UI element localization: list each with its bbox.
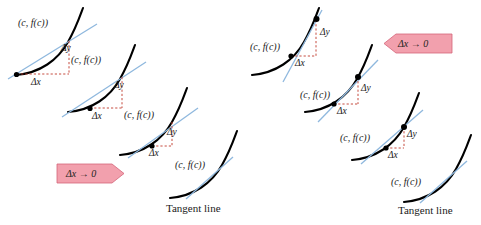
secant-second-point-dot bbox=[355, 74, 361, 80]
right-step-2-delta-y-label: Δy bbox=[361, 84, 371, 94]
right-step-4 bbox=[404, 135, 471, 203]
secant-line bbox=[8, 24, 97, 79]
right-step-3-delta-x-label: Δx bbox=[388, 151, 398, 161]
right-step-3-delta-y-label: Δy bbox=[407, 130, 417, 140]
left-step-3 bbox=[120, 88, 198, 158]
right-step-3-point-label: (c, f(c)) bbox=[340, 133, 370, 143]
right-step-2-delta-x-label: Δx bbox=[337, 107, 347, 117]
left-step-4-point-label: (c, f(c)) bbox=[175, 160, 205, 170]
tangent-line-figure: (c, f(c)) Δy Δx (c, f(c)) Δy Δx (c, f(c)… bbox=[0, 0, 481, 225]
left-step-3-delta-y-label: Δy bbox=[167, 128, 177, 138]
point-c-dot bbox=[288, 53, 293, 58]
right-step-4-point-label: (c, f(c)) bbox=[391, 177, 421, 187]
left-step-1-point-label: (c, f(c)) bbox=[18, 18, 48, 28]
left-step-2-delta-y-label: Δy bbox=[114, 81, 124, 91]
left-step-2-point-label: (c, f(c)) bbox=[71, 55, 101, 65]
left-step-2-delta-x-label: Δx bbox=[92, 112, 102, 122]
left-step-1-delta-x-label: Δx bbox=[31, 78, 41, 88]
left-panel bbox=[8, 8, 237, 199]
right-limit-banner-label: Δx → 0 bbox=[398, 39, 428, 49]
left-limit-banner-label: Δx → 0 bbox=[66, 169, 96, 179]
right-step-1-delta-y-label: Δy bbox=[320, 28, 330, 38]
right-step-1-delta-x-label: Δx bbox=[295, 59, 305, 69]
right-panel bbox=[252, 8, 471, 203]
right-step-1-point-label: (c, f(c)) bbox=[250, 42, 280, 52]
left-step-3-point-label: (c, f(c)) bbox=[124, 110, 154, 120]
left-step-3-delta-x-label: Δx bbox=[149, 149, 159, 159]
point-c-dot bbox=[331, 101, 336, 106]
left-tangent-line-label: Tangent line bbox=[166, 203, 221, 214]
figure-canvas bbox=[0, 0, 481, 225]
secant-second-point-dot bbox=[314, 16, 320, 22]
point-c-dot bbox=[14, 72, 19, 77]
left-step-1-delta-y-label: Δy bbox=[61, 44, 71, 54]
tangent-line bbox=[420, 161, 467, 203]
curve bbox=[404, 135, 471, 202]
curve bbox=[305, 45, 372, 112]
right-tangent-line-label: Tangent line bbox=[398, 205, 453, 216]
right-step-2-point-label: (c, f(c)) bbox=[300, 90, 330, 100]
